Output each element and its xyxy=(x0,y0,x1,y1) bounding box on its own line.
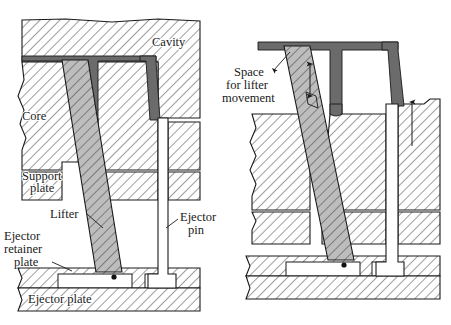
label-ejector-retainer-line2: retainer xyxy=(4,242,43,256)
retainer-pocket-lifter xyxy=(58,274,132,288)
support-plate-right-r xyxy=(398,212,440,244)
support-plate-middle xyxy=(104,172,158,200)
label-space-line2: for lifter xyxy=(226,78,269,92)
label-support-plate-line2: plate xyxy=(30,181,55,195)
label-space-line1: Space xyxy=(234,65,264,79)
core-block-right-r xyxy=(398,99,440,210)
label-ejector-retainer-line1: Ejector xyxy=(4,229,41,243)
label-space-line3: movement xyxy=(222,91,275,105)
core-block-right xyxy=(168,122,200,170)
label-cavity: Cavity xyxy=(152,35,186,49)
label-ejector-pin-line2: pin xyxy=(188,223,205,237)
label-ejector-plate: Ejector plate xyxy=(28,292,92,306)
label-lifter: Lifter xyxy=(50,207,79,221)
molded-part-rib-foot-r xyxy=(330,104,342,116)
support-plate-right xyxy=(168,172,200,200)
lifter-pivot-dot-r xyxy=(341,262,346,267)
ejector-plate-r xyxy=(246,276,440,299)
retainer-pocket-lifter-r xyxy=(286,262,360,276)
support-plate-left-r xyxy=(252,212,310,244)
lifter-pivot-dot xyxy=(111,274,116,279)
mold-lifter-diagram: Cavity Core Support plate Lifter Ejector… xyxy=(0,0,451,325)
label-ejector-pin-line1: Ejector xyxy=(180,210,217,224)
label-ejector-retainer-line3: plate xyxy=(14,255,39,269)
label-core: Core xyxy=(22,109,47,123)
